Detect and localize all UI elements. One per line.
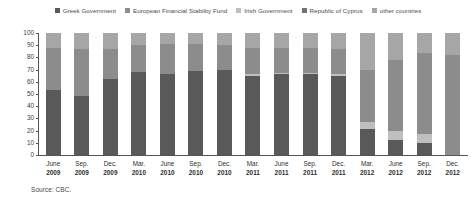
x-axis-label: Sep.2011	[296, 160, 325, 177]
plot-area	[39, 33, 467, 155]
stacked-bar[interactable]	[160, 33, 175, 155]
bar-group[interactable]	[96, 33, 125, 155]
bar-segment[interactable]	[331, 49, 346, 75]
x-axis-label: Mar.2010	[125, 160, 154, 177]
bar-segment[interactable]	[103, 79, 118, 155]
bar-segment[interactable]	[303, 48, 318, 74]
bar-segment[interactable]	[331, 76, 346, 155]
bar-group[interactable]	[381, 33, 410, 155]
bar-segment[interactable]	[131, 72, 146, 155]
x-axis-label: Dec.2010	[210, 160, 239, 177]
y-axis: 1009080706050403020100	[18, 33, 38, 159]
bar-segment[interactable]	[445, 33, 460, 55]
bar-group[interactable]	[39, 33, 68, 155]
bar-segment[interactable]	[274, 48, 289, 74]
bar-segment[interactable]	[103, 49, 118, 80]
legend-item-other_countries[interactable]: other countries	[372, 7, 422, 14]
bar-group[interactable]	[410, 33, 439, 155]
bar-segment[interactable]	[160, 44, 175, 75]
bar-segment[interactable]	[274, 74, 289, 155]
bar-segment[interactable]	[131, 45, 146, 72]
stacked-bar[interactable]	[417, 33, 432, 155]
stacked-bar[interactable]	[74, 33, 89, 155]
stacked-bar[interactable]	[303, 33, 318, 155]
bar-segment[interactable]	[188, 71, 203, 155]
bar-segment[interactable]	[245, 33, 260, 48]
x-axis-label-month: Dec.	[438, 160, 467, 169]
stacked-bar[interactable]	[131, 33, 146, 155]
bar-segment[interactable]	[274, 33, 289, 48]
bar-group[interactable]	[239, 33, 268, 155]
x-axis-label-month: June	[39, 160, 68, 169]
x-axis-label: Sep.2009	[68, 160, 97, 177]
bar-segment[interactable]	[303, 33, 318, 48]
legend-label: Irish Government	[244, 7, 292, 14]
bar-segment[interactable]	[131, 33, 146, 45]
bar-segment[interactable]	[388, 60, 403, 131]
bar-group[interactable]	[210, 33, 239, 155]
bar-segment[interactable]	[417, 53, 432, 135]
x-axis-label-month: June	[267, 160, 296, 169]
y-axis-tick-label: 0	[14, 152, 34, 158]
x-axis-label-month: June	[381, 160, 410, 169]
bar-segment[interactable]	[417, 143, 432, 155]
stacked-bar[interactable]	[103, 33, 118, 155]
bar-group[interactable]	[125, 33, 154, 155]
x-axis-label: Dec.2009	[96, 160, 125, 177]
stacked-bar[interactable]	[274, 33, 289, 155]
legend-item-greek_government[interactable]: Greek Government	[55, 7, 116, 14]
stacked-bar[interactable]	[331, 33, 346, 155]
bar-segment[interactable]	[74, 33, 89, 49]
bar-segment[interactable]	[245, 48, 260, 75]
bar-group[interactable]	[324, 33, 353, 155]
stacked-bar[interactable]	[245, 33, 260, 155]
bar-segment[interactable]	[217, 45, 232, 69]
legend-item-republic_of_cyprus[interactable]: Republic of Cyprus	[302, 7, 363, 14]
bar-segment[interactable]	[388, 131, 403, 141]
legend-item-irish_government[interactable]: Irish Government	[236, 7, 292, 14]
y-axis-tick-label: 30	[14, 115, 34, 121]
bar-segment[interactable]	[103, 33, 118, 49]
bar-group[interactable]	[353, 33, 382, 155]
x-axis-label-month: June	[153, 160, 182, 169]
bar-group[interactable]	[68, 33, 97, 155]
bar-segment[interactable]	[360, 33, 375, 70]
bar-segment[interactable]	[46, 33, 61, 48]
bar-segment[interactable]	[46, 48, 61, 91]
y-axis-tick-label: 60	[14, 79, 34, 85]
x-axis-label-year: 2011	[296, 169, 325, 178]
bar-segment[interactable]	[74, 96, 89, 155]
bar-segment[interactable]	[303, 74, 318, 155]
bar-segment[interactable]	[217, 70, 232, 155]
x-axis-label-year: 2012	[410, 169, 439, 178]
bar-segment[interactable]	[445, 55, 460, 155]
bar-group[interactable]	[438, 33, 467, 155]
stacked-bar[interactable]	[46, 33, 61, 155]
bar-group[interactable]	[267, 33, 296, 155]
stacked-bar[interactable]	[217, 33, 232, 155]
bar-segment[interactable]	[160, 74, 175, 155]
bar-segment[interactable]	[388, 33, 403, 60]
bar-segment[interactable]	[417, 33, 432, 53]
bar-segment[interactable]	[417, 134, 432, 143]
stacked-bar[interactable]	[388, 33, 403, 155]
bar-segment[interactable]	[46, 90, 61, 155]
bar-segment[interactable]	[74, 49, 89, 97]
bar-segment[interactable]	[360, 70, 375, 122]
stacked-bar[interactable]	[360, 33, 375, 155]
bar-group[interactable]	[153, 33, 182, 155]
bar-segment[interactable]	[360, 122, 375, 129]
bar-segment[interactable]	[388, 140, 403, 155]
stacked-bar[interactable]	[445, 33, 460, 155]
bar-segment[interactable]	[188, 44, 203, 71]
bar-segment[interactable]	[188, 33, 203, 44]
bar-segment[interactable]	[360, 129, 375, 155]
stacked-bar[interactable]	[188, 33, 203, 155]
bar-segment[interactable]	[160, 33, 175, 44]
bar-segment[interactable]	[217, 33, 232, 45]
bar-segment[interactable]	[245, 76, 260, 155]
bar-segment[interactable]	[331, 33, 346, 49]
bar-group[interactable]	[296, 33, 325, 155]
bar-group[interactable]	[182, 33, 211, 155]
legend-item-efsf[interactable]: European Financial Stability Fund	[125, 7, 227, 14]
